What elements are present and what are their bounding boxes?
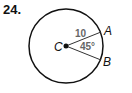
center-point [64, 44, 69, 49]
point-a-label: A [103, 24, 112, 38]
radius-label: 10 [75, 28, 87, 39]
angle-label: 45° [80, 41, 95, 52]
circle-diagram: C A B 10 45° [0, 0, 132, 93]
point-b-label: B [103, 55, 111, 69]
center-label: C [54, 40, 63, 54]
